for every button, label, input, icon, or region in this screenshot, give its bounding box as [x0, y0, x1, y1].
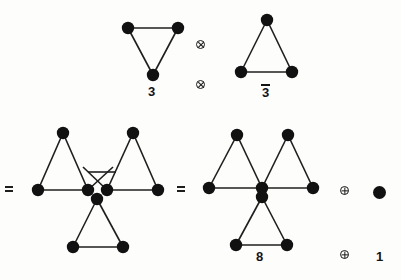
octet-8-nodes [203, 129, 319, 251]
octet-8-diagram [203, 129, 319, 251]
equals-sign-left [5, 186, 13, 192]
label-antitriplet-3bar: 3 [262, 85, 269, 99]
edge [267, 20, 292, 72]
edge [236, 197, 262, 245]
circled-plus-icon-label-row [340, 250, 349, 259]
weight-node [307, 182, 319, 194]
weight-node [152, 184, 164, 196]
edge [133, 133, 158, 190]
edge [241, 20, 267, 72]
weight-node [230, 239, 242, 251]
edge [107, 133, 133, 190]
edge [128, 28, 153, 75]
antitriplet-3bar-edges [241, 20, 292, 72]
triplet-3-edges [128, 28, 178, 75]
weight-node [117, 241, 129, 253]
weight-node [172, 22, 184, 34]
weight-node [67, 241, 79, 253]
weight-node [122, 22, 134, 34]
label-singlet-1: 1 [376, 250, 383, 263]
singlet-node [373, 186, 386, 199]
triplet-3-nodes [122, 22, 184, 81]
edge [288, 135, 313, 188]
label-triplet-3: 3 [148, 85, 155, 98]
weight-node [82, 184, 94, 196]
edge [73, 199, 97, 247]
edge [38, 133, 63, 190]
weight-node [147, 69, 159, 81]
edge [262, 135, 288, 188]
circled-times-icon-label-row [196, 80, 205, 89]
weight-node [101, 184, 113, 196]
edge [153, 28, 178, 75]
edge [209, 135, 237, 188]
equals-sign-middle [177, 186, 185, 192]
edge [63, 133, 88, 190]
weight-node [282, 129, 294, 141]
weight-node [127, 127, 139, 139]
figure-canvas: 3 3 8 1 [0, 0, 401, 280]
label-octet-8: 8 [256, 250, 263, 263]
weight-node [203, 182, 215, 194]
label-antitriplet-3bar-text: 3 [262, 85, 269, 99]
weight-node [261, 14, 273, 26]
triplet-3-diagram [122, 22, 184, 81]
weight-node [32, 184, 44, 196]
weight-node [91, 193, 103, 205]
circled-plus-icon-diagram-row [340, 186, 349, 195]
weight-node [231, 129, 243, 141]
weight-node-center-lower [256, 191, 268, 203]
edge [97, 199, 123, 247]
edge [262, 197, 287, 245]
weight-node [286, 66, 298, 78]
circled-times-icon-upper [196, 40, 205, 49]
antitriplet-3bar-nodes [235, 14, 298, 78]
antitriplet-3bar-diagram [235, 14, 298, 78]
weight-node [281, 239, 293, 251]
product-weight-diagram [32, 127, 164, 253]
edge [237, 135, 262, 188]
weight-node [235, 66, 247, 78]
weight-node [57, 127, 69, 139]
product-diagram-edges [38, 133, 158, 247]
